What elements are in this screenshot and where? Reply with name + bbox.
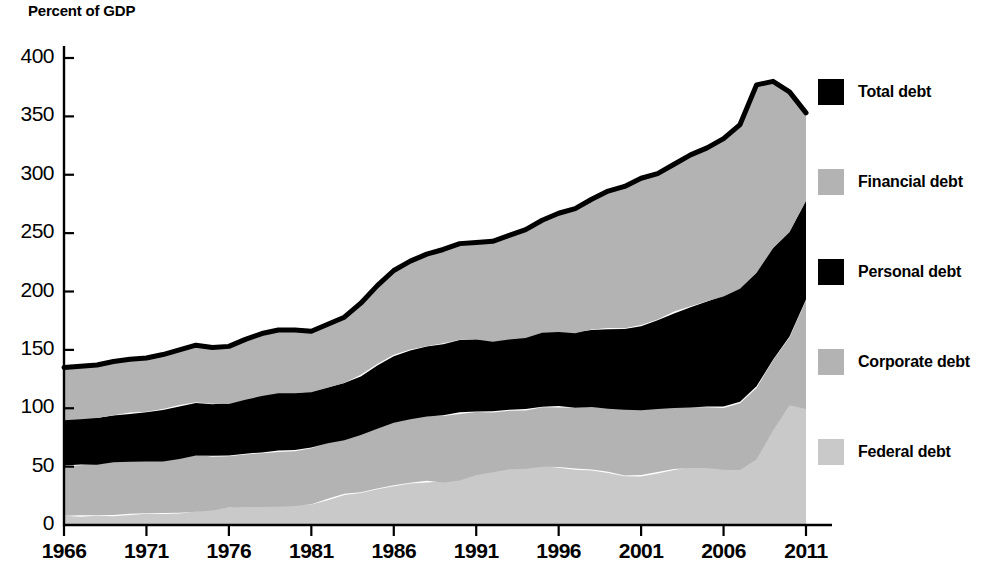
x-tick-label: 1981: [279, 539, 343, 563]
x-tick-label: 1966: [32, 539, 96, 563]
legend-item-total-debt[interactable]: Total debt: [818, 78, 986, 106]
legend-item-corporate-debt[interactable]: Corporate debt: [818, 348, 986, 376]
chart-legend: Total debtFinancial debtPersonal debtCor…: [818, 78, 986, 528]
y-tick-label: 100: [2, 394, 54, 418]
x-tick-label: 2001: [609, 539, 673, 563]
legend-label: Personal debt: [858, 263, 961, 281]
y-tick-label: 150: [2, 336, 54, 360]
y-tick-label: 300: [2, 161, 54, 185]
x-tick-label: 1996: [527, 539, 591, 563]
y-tick-label: 0: [2, 511, 54, 535]
y-tick-label: 350: [2, 102, 54, 126]
chart-figure: Percent of GDP 400350300250200150100500 …: [0, 0, 987, 572]
y-tick-label: 50: [2, 453, 54, 477]
legend-label: Federal debt: [858, 443, 951, 461]
legend-label: Total debt: [858, 83, 931, 101]
y-tick-label: 250: [2, 219, 54, 243]
x-tick-label: 2006: [692, 539, 756, 563]
legend-swatch-icon: [818, 259, 844, 285]
legend-label: Corporate debt: [858, 353, 970, 371]
x-tick-label: 1991: [444, 539, 508, 563]
legend-item-financial-debt[interactable]: Financial debt: [818, 168, 986, 196]
legend-swatch-icon: [818, 349, 844, 375]
x-tick-label: 1986: [362, 539, 426, 563]
x-tick-label: 1971: [114, 539, 178, 563]
legend-label: Financial debt: [858, 173, 963, 191]
legend-swatch-icon: [818, 79, 844, 105]
y-tick-label: 400: [2, 44, 54, 68]
y-tick-label: 200: [2, 278, 54, 302]
legend-item-personal-debt[interactable]: Personal debt: [818, 258, 986, 286]
legend-swatch-icon: [818, 439, 844, 465]
legend-item-federal-debt[interactable]: Federal debt: [818, 438, 986, 466]
x-tick-label: 2011: [774, 539, 838, 563]
legend-swatch-icon: [818, 169, 844, 195]
x-tick-label: 1976: [197, 539, 261, 563]
